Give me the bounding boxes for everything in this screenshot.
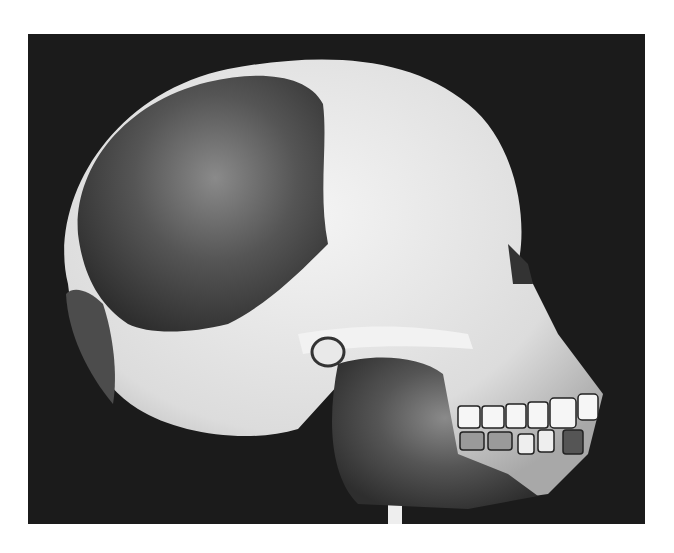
skull-illustration (28, 34, 645, 524)
lower-front-teeth (518, 430, 583, 454)
ear-region (312, 338, 344, 366)
skull-photograph (28, 34, 645, 524)
